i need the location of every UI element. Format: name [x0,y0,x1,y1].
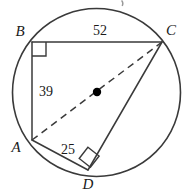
segment-dc [88,42,162,170]
vertex-label-c: C [166,22,177,38]
circle-center-dot [93,88,101,96]
measure-label-ba: 39 [39,84,53,99]
measure-label-bc: 52 [93,23,107,38]
vertex-label-a: A [10,139,21,155]
vertex-label-b: B [15,23,24,39]
cropped-text-artifact [122,1,123,5]
geometry-figure-root: B C A D 52 39 25 [0,0,192,192]
vertex-label-d: D [82,176,94,192]
measure-label-ad: 25 [61,142,75,157]
geometry-canvas: B C A D 52 39 25 [0,0,192,192]
right-angle-marker-b [32,42,46,56]
